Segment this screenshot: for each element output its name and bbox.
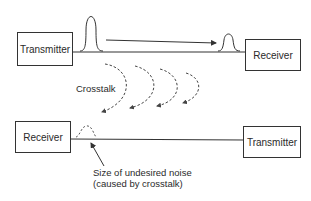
noise-annotation-line2: (caused by crosstalk) xyxy=(93,178,183,189)
crosstalk-arc-3 xyxy=(157,69,177,106)
noise-annotation-line1: Size of undesired noise xyxy=(93,167,192,178)
top-transmitter-label: Transmitter xyxy=(20,44,70,55)
crosstalk-arc-4 xyxy=(183,73,199,103)
crosstalk-arc-2 xyxy=(130,66,154,108)
bottom-receiver-box: Receiver xyxy=(15,121,71,153)
transmitted-pulse xyxy=(80,17,103,52)
top-receiver-box: Receiver xyxy=(245,39,301,71)
crosstalk-label: Crosstalk xyxy=(76,83,116,94)
propagation-arrow xyxy=(106,40,216,43)
received-pulse xyxy=(218,34,240,51)
noise-bump xyxy=(76,126,96,137)
bottom-receiver-label: Receiver xyxy=(23,132,62,143)
noise-pointer-arrow xyxy=(91,143,104,166)
top-receiver-label: Receiver xyxy=(253,50,292,61)
bottom-transmitter-box: Transmitter xyxy=(243,126,301,158)
bottom-signal-line xyxy=(70,139,245,140)
top-transmitter-box: Transmitter xyxy=(17,32,73,66)
bottom-transmitter-label: Transmitter xyxy=(247,137,297,148)
